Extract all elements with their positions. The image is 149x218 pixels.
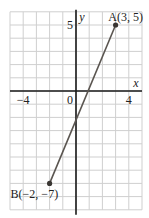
- point-a-label: A(3, 5): [108, 10, 143, 24]
- point-b: [47, 181, 52, 186]
- axes: [10, 10, 142, 215]
- coordinate-plane: x y −4 0 4 5 B(−2, −7) A(3, 5): [0, 0, 149, 218]
- x-tick-label: −4: [17, 93, 30, 107]
- point-b-label: B(−2, −7): [11, 187, 59, 201]
- x-tick-label: 4: [126, 93, 132, 107]
- x-axis-label: x: [132, 76, 139, 90]
- origin-label: 0: [67, 93, 73, 107]
- y-tick-label: 5: [67, 18, 73, 32]
- y-axis-label: y: [78, 10, 85, 24]
